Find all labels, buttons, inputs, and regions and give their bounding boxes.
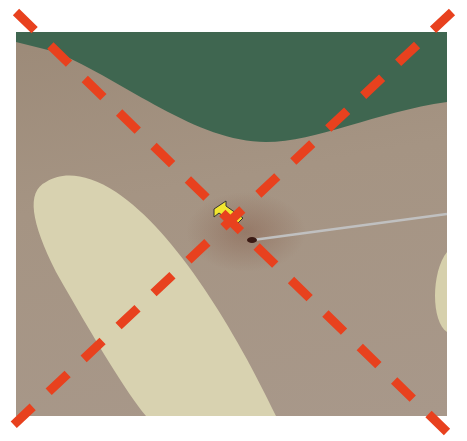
figure	[0, 0, 467, 441]
clinical-photo	[16, 32, 447, 416]
wire-probe	[253, 214, 447, 240]
glove-edge-right	[435, 252, 447, 332]
puncture-point	[247, 237, 257, 243]
photo-scene	[16, 32, 447, 416]
gloved-finger	[34, 175, 276, 416]
yellow-arrow-icon	[214, 201, 243, 225]
green-drape	[16, 32, 447, 142]
